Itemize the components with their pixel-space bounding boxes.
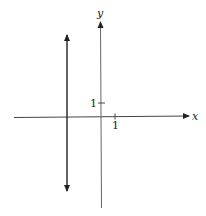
y-tick-label-1: 1 — [90, 97, 97, 110]
x-axis-label: x — [192, 110, 199, 123]
graph-plot: x y 1 1 — [0, 0, 206, 216]
y-axis-label: y — [96, 7, 104, 20]
x-tick-label-1: 1 — [112, 119, 119, 132]
y-axis — [101, 22, 102, 208]
